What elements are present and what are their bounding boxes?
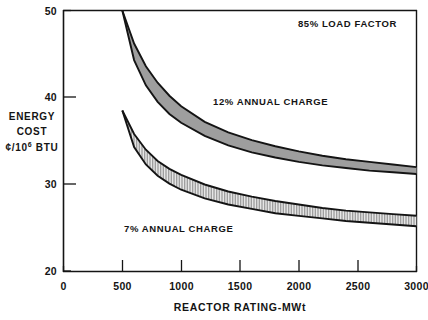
annotation-load-factor: 85% LOAD FACTOR bbox=[298, 18, 397, 29]
x-tick-label-2000: 2000 bbox=[287, 280, 312, 292]
annotation-band-12: 12% ANNUAL CHARGE bbox=[213, 96, 328, 107]
energy-cost-chart: 50 40 30 20 0 500 1000 1500 2000 2500 30… bbox=[0, 0, 428, 320]
x-axis-ticks bbox=[64, 260, 417, 272]
y-axis-unit-suffix: BTU bbox=[32, 142, 58, 153]
y-axis-title: ENERGY COST ¢/106 BTU bbox=[6, 111, 59, 153]
x-tick-label-2500: 2500 bbox=[346, 280, 371, 292]
y-axis-title-line3: ¢/106 BTU bbox=[6, 141, 59, 153]
x-tick-label-1500: 1500 bbox=[228, 280, 253, 292]
y-tick-label-50: 50 bbox=[45, 5, 57, 17]
y-axis-title-line1: ENERGY bbox=[9, 111, 55, 122]
x-tick-label-1000: 1000 bbox=[169, 280, 194, 292]
y-tick-label-30: 30 bbox=[45, 178, 57, 190]
x-axis-title: REACTOR RATING-MWt bbox=[174, 301, 306, 313]
x-tick-label-500: 500 bbox=[113, 280, 131, 292]
chart-canvas: 50 40 30 20 0 500 1000 1500 2000 2500 30… bbox=[0, 0, 428, 320]
y-axis-unit-base: ¢/10 bbox=[6, 142, 28, 153]
band-12-upper-edge bbox=[122, 11, 416, 168]
y-tick-label-40: 40 bbox=[45, 91, 57, 103]
data-bands bbox=[122, 11, 416, 227]
annotation-band-7: 7% ANNUAL CHARGE bbox=[124, 223, 233, 234]
x-tick-label-3000: 3000 bbox=[404, 280, 428, 292]
y-axis-ticks bbox=[64, 11, 77, 272]
y-axis-title-line2: COST bbox=[17, 126, 48, 137]
y-tick-label-20: 20 bbox=[45, 265, 57, 277]
y-tick-labels: 50 40 30 20 bbox=[45, 5, 57, 277]
x-tick-label-0: 0 bbox=[60, 280, 66, 292]
x-tick-labels: 0 500 1000 1500 2000 2500 3000 bbox=[60, 280, 428, 292]
